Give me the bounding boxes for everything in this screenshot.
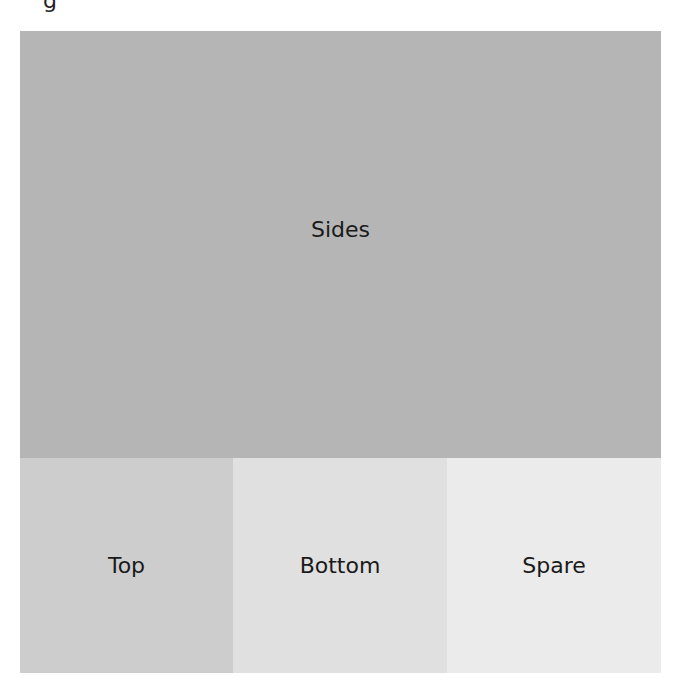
region-label-spare: Spare bbox=[522, 553, 586, 578]
region-bottom: Bottom bbox=[233, 458, 447, 673]
region-label-top: Top bbox=[108, 553, 145, 578]
region-label-sides: Sides bbox=[311, 217, 370, 242]
clipped-heading-text: g bbox=[43, 0, 57, 13]
region-sides: Sides bbox=[20, 31, 661, 458]
layout-diagram: Sides Top Bottom Spare bbox=[20, 31, 661, 673]
region-top: Top bbox=[20, 458, 233, 673]
region-spare: Spare bbox=[447, 458, 661, 673]
region-label-bottom: Bottom bbox=[300, 553, 381, 578]
